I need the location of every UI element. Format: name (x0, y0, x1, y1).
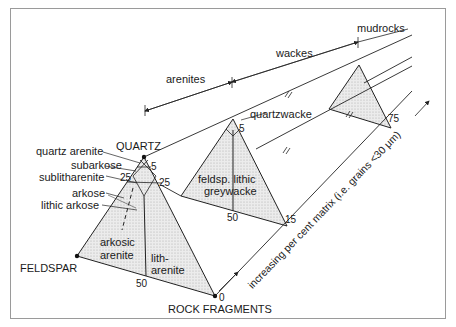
label-arkosic-arenite-1: arkosic (100, 237, 135, 248)
num-front-25-right: 25 (159, 178, 170, 188)
num-back-75: 75 (388, 114, 399, 124)
matrix-arrow-upper (415, 101, 429, 116)
num-mid-50: 50 (227, 213, 238, 223)
diagram-canvas (0, 0, 456, 327)
label-feldspar: FELDSPAR (20, 263, 77, 274)
label-quartz: QUARTZ (116, 141, 161, 152)
wacke-triangle (181, 113, 287, 226)
label-litharenite-2: arenite (151, 265, 185, 276)
label-greywacke-1: feldsp. lithic (198, 174, 255, 185)
label-rock-fragments: ROCK FRAGMENTS (168, 304, 272, 315)
label-litharenite-1: lith- (151, 253, 169, 264)
num-mid-5: 5 (239, 124, 245, 134)
label-quartz-arenite: quartz arenite (36, 146, 103, 157)
num-front-0: 0 (219, 293, 225, 303)
label-arkose: arkose (72, 188, 105, 199)
label-mudrocks: mudrocks (357, 23, 405, 34)
num-mid-15: 15 (285, 215, 296, 225)
label-arkosic-arenite-2: arenite (100, 250, 134, 261)
num-front-25-left: 25 (120, 173, 131, 183)
num-front-5: 5 (151, 162, 157, 172)
num-front-50: 50 (136, 279, 147, 289)
label-subarkose: subarkose (71, 160, 122, 171)
label-wackes: wackes (276, 48, 313, 59)
label-sublitharenite: sublitharenite (39, 172, 104, 183)
mudrock-triangle (329, 65, 391, 128)
label-arenites: arenites (166, 74, 205, 85)
label-greywacke-2: greywacke (204, 186, 257, 197)
label-quartzwacke: quartzwacke (250, 109, 312, 120)
matrix-arrow-lower (219, 272, 238, 291)
label-lithic-arkose: lithic arkose (41, 200, 99, 211)
